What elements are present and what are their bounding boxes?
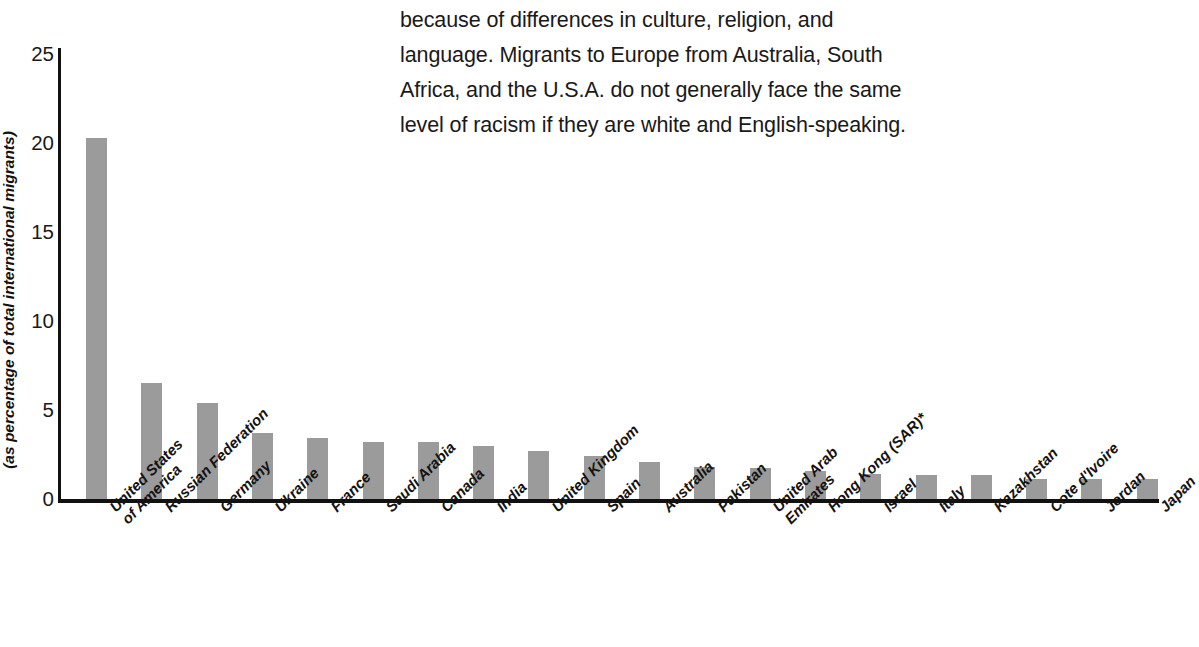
bar	[363, 442, 384, 499]
x-axis-category-label: Kazakhstan	[990, 503, 1002, 515]
x-axis-category-label: Jordan	[1101, 503, 1113, 515]
x-axis-category-labels: United Statesof AmericaRussian Federatio…	[0, 503, 1161, 647]
x-axis-category-label: Spain	[603, 503, 615, 515]
bar	[86, 138, 107, 499]
x-axis-category-label-line: Emirates	[781, 515, 793, 527]
x-axis-category-label: Pakistan	[714, 503, 726, 515]
x-axis-category-label: Hong Kong (SAR)*	[824, 503, 836, 515]
x-axis-category-label: Israel	[880, 503, 892, 515]
x-axis-category-label: Cote d'Ivoire	[1046, 503, 1058, 515]
bar	[528, 451, 549, 499]
bar	[971, 475, 992, 499]
x-axis-category-label: Saudi Arabia	[382, 503, 394, 515]
x-axis-category-label: Russian Federation	[161, 503, 173, 515]
plot-area	[0, 0, 1161, 499]
x-axis-category-label: United Kingdom	[548, 503, 560, 515]
x-axis-category-label: Canada	[437, 503, 449, 515]
x-axis-category-label: Germany	[216, 503, 228, 515]
x-axis-category-label: Italy	[935, 503, 947, 515]
x-axis-category-label: United Statesof America	[106, 503, 130, 527]
x-axis-category-label: India	[493, 503, 505, 515]
x-axis-category-label: Australia	[659, 503, 671, 515]
x-axis-category-label-line: of America	[118, 515, 130, 527]
x-axis-category-label: United ArabEmirates	[769, 503, 793, 527]
x-axis-category-label: Ukraine	[271, 503, 283, 515]
x-axis-category-label-line: Japan	[1156, 472, 1199, 515]
x-axis-category-label: Japan	[1156, 503, 1168, 515]
bar	[639, 462, 660, 499]
x-axis-category-label: France	[327, 503, 339, 515]
